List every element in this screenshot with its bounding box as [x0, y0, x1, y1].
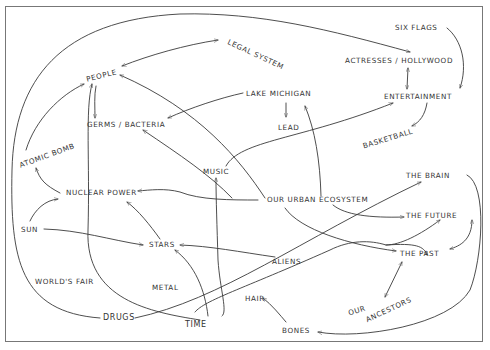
- node-the-future: The Future: [406, 212, 457, 219]
- node-label: Time: [185, 320, 207, 329]
- edge-sun-nuclear: [30, 199, 58, 221]
- node-our-urban-ecosystem: Our Urban Ecosystem: [267, 196, 368, 203]
- node-label: World's Fair: [35, 277, 94, 286]
- node-label: Germs / Bacteria: [87, 120, 165, 129]
- edge-music-entertainment: [226, 103, 393, 166]
- node-bones: Bones: [282, 327, 310, 334]
- edge-entertainment-basketball: [412, 103, 427, 126]
- edge-urban-lake: [305, 106, 321, 196]
- node-label: The Future: [406, 211, 457, 220]
- node-stars: Stars: [149, 241, 175, 248]
- node-label: Nuclear Power: [66, 188, 137, 197]
- edge-aliens-stars: [180, 245, 275, 257]
- node-label: Hair: [245, 294, 265, 303]
- edge-time-stars: [175, 250, 208, 316]
- node-label: Bones: [282, 326, 310, 335]
- node-label: Entertainment: [384, 92, 452, 101]
- edge-future-past: [450, 220, 472, 249]
- node-music: Music: [203, 168, 229, 175]
- edge-stars-nuclear: [127, 202, 160, 239]
- node-aliens: Aliens: [272, 258, 301, 265]
- node-label: Drugs: [103, 313, 135, 322]
- node-worlds-fair: World's Fair: [35, 278, 94, 285]
- edge-sun-stars: [44, 229, 143, 245]
- node-hair: Hair: [245, 295, 265, 302]
- node-the-past: The Past: [400, 250, 439, 257]
- edge-urban-people: [120, 75, 265, 198]
- edge-lake-germs: [168, 93, 243, 118]
- node-label: Music: [203, 167, 229, 176]
- edge-bomb-people: [26, 84, 84, 150]
- edge-bones-hair: [263, 298, 286, 322]
- node-label: The Brain: [406, 171, 450, 180]
- edge-nuclear-bomb: [36, 168, 60, 193]
- node-label: Six Flags: [395, 23, 438, 32]
- node-nuclear-power: Nuclear Power: [66, 189, 137, 196]
- node-label: Sun: [21, 225, 38, 234]
- node-lead: Lead: [278, 124, 299, 131]
- edge-people-germs: [95, 86, 96, 118]
- node-label: Aliens: [272, 257, 301, 266]
- node-germs-bacteria: Germs / Bacteria: [87, 121, 165, 128]
- edge-people-legal: [122, 40, 218, 66]
- edge-actresses-entertainment: [407, 68, 408, 89]
- node-drugs: Drugs: [103, 314, 135, 322]
- node-label: Lake Michigan: [246, 89, 311, 98]
- node-label: Stars: [149, 240, 175, 249]
- node-metal: Metal: [152, 284, 179, 291]
- node-the-brain: The Brain: [406, 172, 450, 179]
- edge-urban-future: [333, 205, 404, 217]
- node-label: Lead: [278, 123, 299, 132]
- node-actresses-hollywood: Actresses / Hollywood: [345, 57, 453, 64]
- node-label: Metal: [152, 283, 179, 292]
- node-time: Time: [185, 321, 207, 329]
- node-label: The Past: [400, 249, 439, 258]
- node-entertainment: Entertainment: [384, 93, 452, 100]
- node-six-flags: Six Flags: [395, 24, 438, 31]
- edge-urban-nuclear: [138, 190, 258, 200]
- node-lake-michigan: Lake Michigan: [246, 90, 311, 97]
- node-sun: Sun: [21, 226, 38, 233]
- edge-past-ancestors: [385, 262, 402, 297]
- node-label: Our Urban Ecosystem: [267, 195, 368, 204]
- node-label: Actresses / Hollywood: [345, 56, 453, 65]
